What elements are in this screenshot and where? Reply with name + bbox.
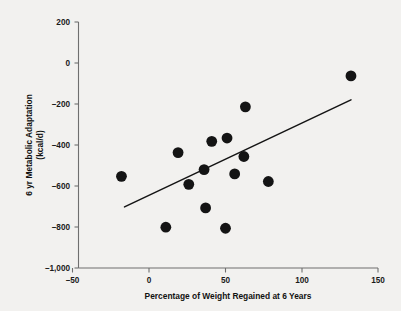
data-point [229,169,240,180]
y-axis-title-line1: 6 yr Metabolic Adaptation [24,94,34,196]
y-axis-title-line2: (kcal/d) [35,130,45,160]
data-point [240,101,251,112]
x-tick-label: –50 [66,276,80,285]
data-point [116,171,127,182]
x-axis-title: Percentage of Weight Regained at 6 Years [145,291,312,301]
x-tick-label: 50 [221,276,231,285]
data-point [346,71,357,82]
y-tick-label: 200 [56,18,70,27]
y-tick-label: –1,000 [45,264,70,273]
data-point [173,147,184,158]
x-tick-label: 150 [371,276,385,285]
data-point [199,164,210,175]
data-point [222,133,233,144]
y-tick-label: 0 [65,59,70,68]
y-tick-label: –800 [52,223,71,232]
scatter-plot-figure: 200 0 –200 –400 –600 –800 –1,000 –50 0 5… [0,0,401,311]
y-tick-label: –400 [52,141,71,150]
data-point [220,223,231,234]
data-point [206,136,217,147]
data-point [200,203,211,214]
data-point [238,151,249,162]
data-point [160,222,171,233]
x-tick-label: 0 [147,276,152,285]
y-tick-label: –600 [52,182,71,191]
data-point [263,176,274,187]
chart-canvas: 200 0 –200 –400 –600 –800 –1,000 –50 0 5… [0,0,401,311]
data-point [183,179,194,190]
x-tick-label: 100 [295,276,309,285]
y-tick-label: –200 [52,100,71,109]
